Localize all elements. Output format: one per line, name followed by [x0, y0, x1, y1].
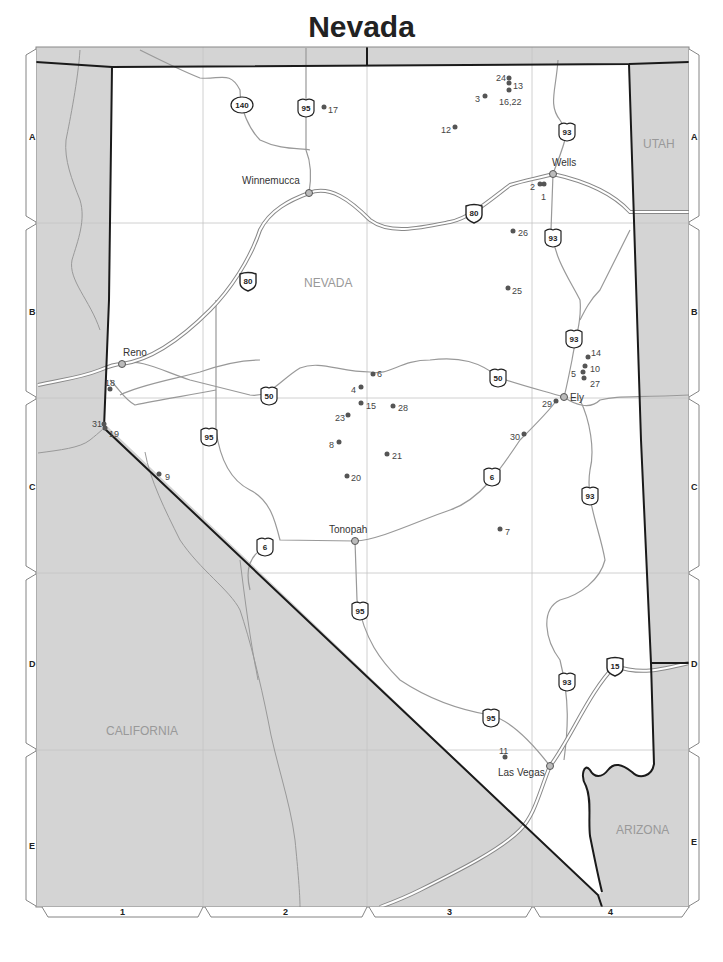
shield-number: 6 — [490, 473, 495, 482]
state-label-arizona: ARIZONA — [616, 823, 669, 837]
shield-number: 93 — [549, 234, 558, 243]
site-number: 7 — [505, 527, 510, 537]
site-dot-icon[interactable] — [102, 422, 107, 427]
city-label: Tonopah — [329, 524, 367, 535]
grid-row-label: B — [29, 307, 36, 317]
city-marker-icon — [561, 394, 568, 401]
site-dot-icon[interactable] — [337, 440, 342, 445]
site-number: 5 — [571, 369, 576, 379]
site-number: 31 — [92, 419, 102, 429]
site-dot-icon[interactable] — [507, 81, 512, 86]
site-dot-icon[interactable] — [583, 364, 588, 369]
site-dot-icon[interactable] — [507, 88, 512, 93]
city-marker-icon — [306, 190, 313, 197]
city-label: Wells — [552, 157, 576, 168]
site-dot-icon[interactable] — [346, 413, 351, 418]
site-number: 25 — [512, 286, 522, 296]
site-number: 1 — [541, 192, 546, 202]
us-highway-shield: 6 — [484, 468, 500, 486]
shield-number: 93 — [563, 128, 572, 137]
state-highway-shield: 140 — [231, 97, 253, 113]
site-number: 4 — [351, 385, 356, 395]
shield-number: 15 — [611, 662, 620, 671]
site-number: 3 — [475, 94, 480, 104]
site-number: 12 — [441, 125, 451, 135]
shield-number: 93 — [586, 492, 595, 501]
us-highway-shield: 93 — [545, 229, 561, 247]
site-number: 30 — [510, 432, 520, 442]
us-highway-shield: 50 — [261, 387, 277, 405]
site-number: 19 — [109, 429, 119, 439]
us-highway-shield: 95 — [352, 602, 368, 620]
state-label-utah: UTAH — [643, 137, 675, 151]
shield-number: 80 — [244, 277, 253, 286]
site-number: 11 — [499, 746, 508, 756]
site-dot-icon[interactable] — [538, 182, 543, 187]
grid-column-label: 3 — [447, 907, 452, 917]
site-dot-icon[interactable] — [359, 385, 364, 390]
site-dot-icon[interactable] — [522, 432, 527, 437]
site-dot-icon[interactable] — [586, 355, 591, 360]
grid-row-label: D — [29, 659, 36, 669]
site-number: 18 — [105, 378, 115, 388]
shield-number: 95 — [205, 433, 214, 442]
site-dot-icon[interactable] — [581, 370, 586, 375]
city-marker-icon — [352, 538, 359, 545]
us-highway-shield: 95 — [201, 428, 217, 446]
us-highway-shield: 93 — [582, 487, 598, 505]
site-dot-icon[interactable] — [391, 404, 396, 409]
interstate-highway-shield: 80 — [240, 273, 256, 292]
city-label: Ely — [570, 392, 584, 403]
shield-number: 93 — [570, 335, 579, 344]
shield-number: 93 — [563, 678, 572, 687]
us-highway-shield: 95 — [298, 99, 314, 117]
site-number: 21 — [392, 451, 402, 461]
shield-number: 95 — [487, 714, 496, 723]
site-number: 26 — [518, 228, 528, 238]
site-dot-icon[interactable] — [507, 76, 512, 81]
site-number: 16,22 — [499, 97, 522, 107]
city-marker-icon — [550, 171, 557, 178]
site-dot-icon[interactable] — [483, 94, 488, 99]
site-dot-icon[interactable] — [511, 229, 516, 234]
site-number: 10 — [590, 364, 600, 374]
city-label: Winnemucca — [242, 175, 300, 186]
shield-number: 80 — [470, 209, 479, 218]
site-dot-icon[interactable] — [322, 105, 327, 110]
grid-row-label: D — [691, 659, 698, 669]
site-number: 24 — [496, 73, 506, 83]
site-number: 8 — [329, 440, 334, 450]
site-dot-icon[interactable] — [453, 125, 458, 130]
nevada-map: A B C D E A B C D E 1 2 3 4 NEVADA UTAH … — [0, 0, 723, 962]
site-number: 28 — [398, 403, 408, 413]
city-label: Las Vegas — [498, 767, 545, 778]
shield-number: 95 — [302, 104, 311, 113]
shield-number: 50 — [494, 374, 503, 383]
state-label-california: CALIFORNIA — [106, 724, 178, 738]
city-label: Reno — [123, 347, 147, 358]
city-marker-icon — [119, 361, 126, 368]
site-dot-icon[interactable] — [345, 474, 350, 479]
site-dot-icon[interactable] — [582, 376, 587, 381]
site-dot-icon[interactable] — [554, 399, 559, 404]
site-dot-icon[interactable] — [385, 452, 390, 457]
us-highway-shield: 93 — [559, 123, 575, 141]
shield-number: 95 — [356, 607, 365, 616]
site-dot-icon[interactable] — [506, 286, 511, 291]
site-number: 6 — [377, 369, 382, 379]
us-highway-shield: 6 — [257, 538, 273, 556]
shield-number: 6 — [263, 543, 268, 552]
site-number: 29 — [542, 399, 552, 409]
grid-column-label: 4 — [608, 907, 613, 917]
site-dot-icon[interactable] — [371, 372, 376, 377]
site-dot-icon[interactable] — [157, 472, 162, 477]
grid-row-label: E — [691, 837, 697, 847]
grid-row-label: B — [691, 307, 698, 317]
site-dot-icon[interactable] — [359, 401, 364, 406]
grid-row-label: A — [29, 132, 36, 142]
site-dot-icon[interactable] — [498, 527, 503, 532]
grid-column-label: 2 — [283, 907, 288, 917]
us-highway-shield: 93 — [566, 330, 582, 348]
grid-row-label: E — [29, 841, 35, 851]
state-label-nevada: NEVADA — [304, 276, 352, 290]
